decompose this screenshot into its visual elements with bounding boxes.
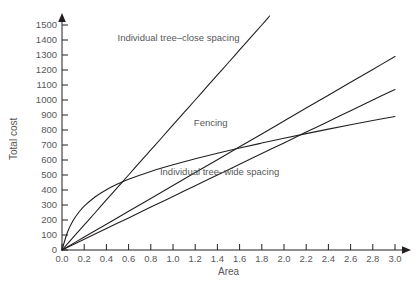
y-tick-label: 1300 [36,49,57,60]
x-axis-title: Area [218,266,240,277]
y-tick-label: 700 [41,139,57,150]
y-tick-label: 900 [41,109,57,120]
y-tick-label: 1200 [36,64,57,75]
x-axis-ticks: 0.00.20.40.60.81.01.21.41.61.82.02.22.42… [55,244,401,264]
series-curve-0 [62,16,270,250]
y-tick-label: 800 [41,124,57,135]
x-tick-label: 0.2 [78,253,91,264]
y-axis-ticks: 0100200300400500600700800900100011001200… [36,19,68,255]
x-tick-label: 2.6 [344,253,357,264]
x-tick-label: 0.0 [55,253,68,264]
x-tick-label: 0.4 [100,253,113,264]
x-axis-arrow-icon [402,246,411,254]
figure-container: 0100200300400500600700800900100011001200… [0,0,417,291]
x-tick-label: 2.4 [322,253,335,264]
x-tick-label: 0.6 [122,253,135,264]
series-label-2: Individual tree–wide spacing [160,166,279,177]
x-tick-label: 1.0 [166,253,179,264]
y-axis-title: Total cost [8,118,19,160]
series-label-1: Fencing [194,117,228,128]
x-tick-label: 2.2 [300,253,313,264]
y-tick-label: 1500 [36,19,57,30]
y-tick-label: 200 [41,214,57,225]
x-tick-label: 1.8 [255,253,268,264]
x-tick-label: 1.4 [211,253,224,264]
series-curve-1 [62,57,395,251]
cost-vs-area-chart: 0100200300400500600700800900100011001200… [0,0,417,291]
y-axis-arrow-icon [58,13,66,22]
y-tick-label: 1000 [36,94,57,105]
data-curves-group [62,16,395,250]
series-label-0: Individual tree–close spacing [118,32,240,43]
series-curve-2 [62,117,395,251]
axes-group [58,13,411,254]
y-tick-label: 1400 [36,34,57,45]
y-tick-label: 300 [41,199,57,210]
y-tick-label: 500 [41,169,57,180]
y-tick-label: 100 [41,229,57,240]
x-tick-label: 1.2 [189,253,202,264]
x-tick-label: 1.6 [233,253,246,264]
x-tick-label: 2.8 [366,253,379,264]
y-tick-label: 1100 [37,79,57,90]
x-tick-label: 2.0 [277,253,290,264]
x-tick-label: 3.0 [388,253,401,264]
x-tick-label: 0.8 [144,253,157,264]
series-annotations-group: Individual tree–close spacingFencingIndi… [118,32,280,177]
y-tick-label: 600 [41,154,57,165]
y-tick-label: 400 [41,184,57,195]
